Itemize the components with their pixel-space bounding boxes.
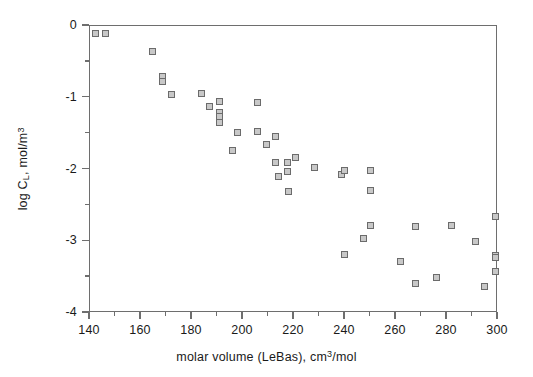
x-axis-minor-tick (267, 312, 268, 316)
x-axis-minor-tick (216, 312, 217, 316)
y-axis-minor-tick (85, 275, 89, 276)
x-axis-title: molar volume (LeBas), cm3/mol (0, 349, 533, 364)
x-axis-tick-label: 200 (231, 323, 252, 337)
y-axis-title-pre: log C (16, 180, 30, 210)
x-axis-minor-tick (369, 312, 370, 316)
x-axis-tick (292, 312, 293, 319)
y-axis-tick-label: -1 (47, 90, 77, 104)
y-axis-tick (82, 311, 89, 312)
y-axis-tick-label: 0 (47, 18, 77, 32)
x-axis-title-post: /mol (332, 350, 356, 364)
x-axis-minor-tick (165, 312, 166, 316)
x-axis-tick (241, 312, 242, 319)
x-axis-minor-tick (114, 312, 115, 316)
x-axis-tick (343, 312, 344, 319)
plot-area-frame (89, 25, 497, 312)
y-axis-tick-label: -3 (47, 233, 77, 247)
y-axis-title-superscript: 3 (15, 127, 25, 132)
x-axis-minor-tick (318, 312, 319, 316)
x-axis-tick-label: 280 (435, 323, 456, 337)
y-axis-title-wrapper: log CL, mol/m3 (6, 0, 40, 337)
x-axis-minor-tick (471, 312, 472, 316)
x-axis-tick-label: 300 (486, 323, 507, 337)
x-axis-tick-label: 260 (384, 323, 405, 337)
y-axis-title-mid: , mol/m (16, 132, 30, 174)
y-axis-minor-tick (85, 204, 89, 205)
y-axis-tick-label: -2 (47, 162, 77, 176)
y-axis-minor-tick (85, 132, 89, 133)
x-axis-title-pre: molar volume (LeBas), cm (176, 350, 327, 364)
scatter-chart-figure: 1401601802002202402602803000-1-2-3-4 mol… (0, 0, 533, 377)
x-axis-tick-label: 220 (282, 323, 303, 337)
y-axis-tick (82, 24, 89, 25)
x-axis-minor-tick (420, 312, 421, 316)
x-axis-tick-label: 140 (78, 323, 99, 337)
y-axis-minor-tick (85, 60, 89, 61)
x-axis-tick-label: 240 (333, 323, 354, 337)
x-axis-tick (496, 312, 497, 319)
x-axis-tick (88, 312, 89, 319)
y-axis-title: log CL, mol/m3 (15, 127, 31, 210)
y-axis-tick (82, 168, 89, 169)
x-axis-tick (190, 312, 191, 319)
y-axis-tick-label: -4 (47, 305, 77, 319)
x-axis-tick-label: 160 (129, 323, 150, 337)
x-axis-tick-label: 180 (180, 323, 201, 337)
y-axis-tick (82, 96, 89, 97)
x-axis-tick (139, 312, 140, 319)
x-axis-tick (394, 312, 395, 319)
y-axis-tick (82, 240, 89, 241)
x-axis-tick (445, 312, 446, 319)
